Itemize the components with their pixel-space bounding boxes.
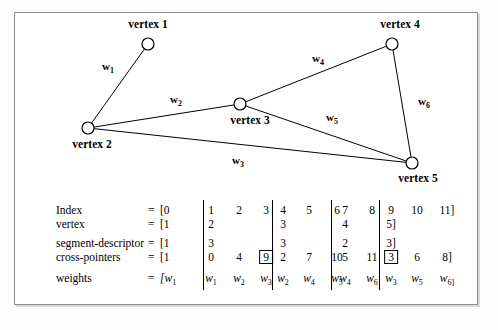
segment-descriptor-row-cell: 3] bbox=[386, 237, 396, 249]
weights-row-open-bracket: [w1 bbox=[160, 272, 176, 287]
graph-edge bbox=[94, 105, 234, 127]
weights-row-cell: w3 bbox=[385, 272, 397, 287]
cross-pointers-row-cell: 2 bbox=[280, 251, 286, 263]
index-row-cell: 9 bbox=[388, 204, 394, 216]
index-row-cell: 7 bbox=[342, 204, 348, 216]
weight-symbol: w bbox=[411, 272, 419, 284]
weights-row-equals: = bbox=[148, 272, 155, 284]
weight-subscript: 6 bbox=[374, 278, 378, 287]
index-row-cell: 6 bbox=[334, 204, 340, 216]
cross-pointers-row-cell: 3 bbox=[384, 250, 398, 264]
weight-symbol: w bbox=[233, 272, 241, 284]
segment-descriptor-row-equals: = bbox=[148, 237, 155, 249]
index-row-cell: 11] bbox=[440, 204, 455, 216]
weights-row-cell: w6] bbox=[440, 272, 454, 287]
vertex-row-cell: 3 bbox=[280, 218, 286, 230]
segment-descriptor-row-cell: 3 bbox=[208, 237, 214, 249]
node-label-v1: vertex 1 bbox=[128, 18, 167, 30]
weights-row-cell: w2 bbox=[233, 272, 245, 287]
vertex-row-label: vertex bbox=[56, 218, 85, 230]
segment-descriptor-row-label: segment-descriptor bbox=[56, 237, 144, 249]
weight-symbol: w bbox=[205, 272, 213, 284]
graph-node-v2 bbox=[82, 122, 94, 134]
node-label-v2: vertex 2 bbox=[72, 138, 111, 150]
index-row-cell: 8 bbox=[369, 204, 375, 216]
edge-weight-symbol: w bbox=[232, 154, 240, 166]
open-bracket-text: [w bbox=[160, 272, 172, 284]
graph-node-v5 bbox=[406, 157, 418, 169]
edge-weight-subscript: 3 bbox=[240, 160, 244, 169]
graph-edge bbox=[94, 129, 406, 163]
segment-descriptor-row-open-bracket: [1 bbox=[160, 237, 170, 249]
vertex-row-equals: = bbox=[148, 218, 155, 230]
weight-symbol: w bbox=[303, 272, 311, 284]
vertex-row-cell: 4 bbox=[342, 218, 348, 230]
edge-weight-label-e1: w1 bbox=[102, 60, 114, 75]
weight-subscript: 2 bbox=[241, 278, 245, 287]
graph-node-v3 bbox=[234, 98, 246, 110]
weights-row-cell: w2 bbox=[277, 272, 289, 287]
index-row-label: Index bbox=[56, 204, 82, 216]
segment-separator-2 bbox=[331, 200, 332, 290]
open-bracket-text: [1 bbox=[160, 218, 170, 230]
weight-subscript: 1 bbox=[213, 278, 217, 287]
open-bracket-text: [1 bbox=[160, 237, 170, 249]
weights-row-label: weights bbox=[56, 272, 92, 284]
cross-pointers-row-equals: = bbox=[148, 251, 155, 263]
edge-weight-label-e6: w6 bbox=[418, 95, 430, 110]
index-row-cell: 5 bbox=[306, 204, 312, 216]
vertex-row-cell: 5] bbox=[386, 218, 396, 230]
weights-row-cell: w4 bbox=[303, 272, 315, 287]
graph-node-v4 bbox=[386, 38, 398, 50]
weight-subscript: 4 bbox=[347, 278, 351, 287]
weight-symbol: w bbox=[440, 272, 448, 284]
data-structure-table: Index=[01234567891011]vertex=[12345]segm… bbox=[0, 196, 498, 306]
graph-node-v1 bbox=[142, 38, 154, 50]
cross-pointers-row-cell: 4 bbox=[236, 251, 242, 263]
cross-pointers-row-cell: 7 bbox=[306, 251, 312, 263]
weight-symbol: w bbox=[366, 272, 374, 284]
weights-row-cell: w5 bbox=[411, 272, 423, 287]
cross-pointers-row-cell: 5 bbox=[342, 251, 348, 263]
weights-row-cell: w6 bbox=[366, 272, 378, 287]
node-label-v5: vertex 5 bbox=[398, 172, 437, 184]
edge-weight-symbol: w bbox=[326, 111, 334, 123]
index-row-cell: 3 bbox=[263, 204, 269, 216]
node-label-v3: vertex 3 bbox=[230, 114, 269, 126]
weights-row-cell: w4 bbox=[339, 272, 351, 287]
weights-row-cell: w1 bbox=[205, 272, 217, 287]
cross-pointers-row-cell: 11 bbox=[366, 251, 377, 263]
weight-symbol: w bbox=[260, 272, 268, 284]
index-row-equals: = bbox=[148, 204, 155, 216]
vertex-row-cell: 2 bbox=[208, 218, 214, 230]
edge-weight-subscript: 2 bbox=[178, 99, 182, 108]
cross-pointers-row-cell: 8] bbox=[442, 251, 452, 263]
cross-pointers-row-cell: 6 bbox=[414, 251, 420, 263]
edge-weight-symbol: w bbox=[170, 93, 178, 105]
edge-weight-subscript: 6 bbox=[426, 101, 430, 110]
edge-weight-label-e3: w3 bbox=[232, 154, 244, 169]
edge-weight-subscript: 1 bbox=[110, 66, 114, 75]
weight-symbol: w bbox=[385, 272, 393, 284]
node-label-v4: vertex 4 bbox=[380, 18, 419, 30]
segment-descriptor-row-cell: 3 bbox=[280, 237, 286, 249]
index-row-cell: 10 bbox=[411, 204, 423, 216]
weight-subscript: 4 bbox=[311, 278, 315, 287]
weight-symbol: w bbox=[277, 272, 285, 284]
index-row-cell: 2 bbox=[236, 204, 242, 216]
weight-subscript: 6] bbox=[448, 278, 455, 287]
figure-page: vertex 1vertex 2vertex 3vertex 4vertex 5… bbox=[0, 0, 498, 330]
segment-descriptor-row-cell: 2 bbox=[342, 237, 348, 249]
edge-weight-label-e5: w5 bbox=[326, 111, 338, 126]
graph-edge bbox=[393, 50, 411, 157]
segment-separator-0 bbox=[203, 200, 204, 290]
weight-symbol: w bbox=[339, 272, 347, 284]
segment-separator-1 bbox=[272, 200, 273, 290]
edge-weight-symbol: w bbox=[102, 60, 110, 72]
cross-pointers-row-open-bracket: [1 bbox=[160, 251, 170, 263]
open-bracket-subscript: 1 bbox=[172, 278, 176, 287]
open-bracket-text: [0 bbox=[160, 204, 170, 216]
edge-weight-subscript: 4 bbox=[320, 58, 324, 67]
weight-subscript: 3 bbox=[393, 278, 397, 287]
edge-weight-label-e4: w4 bbox=[312, 52, 324, 67]
